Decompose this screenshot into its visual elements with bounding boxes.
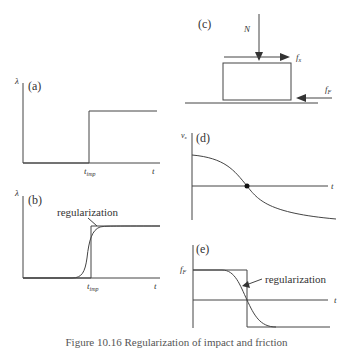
panel-b-xtick: timp	[87, 281, 99, 292]
normal-force-label: N	[243, 24, 251, 34]
panel-b-ylabel: λ	[14, 188, 19, 198]
panel-b-xlabel: t	[154, 281, 157, 291]
panel-b-annotation: regularization	[57, 206, 119, 218]
panel-d-tag: (d)	[196, 131, 210, 145]
applied-force-label: fx	[296, 52, 302, 63]
panel-d	[192, 133, 336, 220]
panel-d-zero-crossing-point	[245, 184, 250, 189]
panel-d-xlabel: t	[331, 181, 334, 191]
panel-e-annotation: regularization	[265, 273, 327, 285]
panel-a-xtick: timp	[84, 166, 96, 177]
panel-b-tag: (b)	[28, 193, 42, 207]
block	[223, 63, 291, 100]
friction-force-label: fF	[325, 84, 332, 95]
panel-a-xlabel: t	[152, 166, 155, 176]
panel-b-annotation-leader	[88, 218, 97, 226]
applied-force-arrowhead	[280, 53, 290, 61]
panel-a-tag: (a)	[28, 79, 41, 93]
panel-e-ylabel: fF	[180, 264, 187, 275]
panel-e-xlabel: t	[334, 295, 337, 305]
figure-caption: Figure 10.16 Regularization of impact an…	[0, 336, 353, 348]
panel-a-ylabel: λ	[14, 76, 19, 86]
panel-e-regularized-curve	[193, 270, 276, 327]
panel-a-step-curve	[23, 111, 157, 163]
panel-e	[193, 245, 330, 328]
panel-e-annotation-arrowhead	[242, 281, 250, 288]
panel-b-step-curve	[23, 226, 160, 278]
panel-a	[23, 83, 160, 163]
panel-e-tag: (e)	[196, 242, 209, 256]
panel-c-tag: (c)	[198, 17, 211, 31]
panel-d-velocity-curve	[192, 155, 336, 219]
friction-force-arrowhead	[296, 94, 306, 102]
panel-d-ylabel: vx	[181, 131, 188, 140]
